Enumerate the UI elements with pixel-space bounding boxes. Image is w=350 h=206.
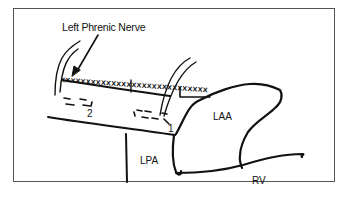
ablation-marks: xxxxxxxxxxxxxxxxxxxxxxxxxxxxx bbox=[60, 75, 208, 95]
site-1-marks bbox=[134, 110, 169, 124]
lower-border-line bbox=[48, 117, 175, 135]
site-2-marks bbox=[64, 98, 92, 106]
site-1-label: 1 bbox=[168, 123, 174, 134]
site-2-label: 2 bbox=[87, 108, 93, 119]
lpa-left-wall bbox=[126, 134, 127, 182]
rv-label: RV bbox=[252, 175, 266, 186]
arrow-icon bbox=[72, 35, 98, 76]
laa-label: LAA bbox=[213, 111, 232, 122]
lpa-label: LPA bbox=[140, 155, 158, 166]
anatomy-drawing: xxxxxxxxxxxxxxxxxxxxxxxxxxxxx bbox=[0, 0, 350, 206]
left-phrenic-nerve-label: Left Phrenic Nerve bbox=[62, 21, 145, 33]
lpa-right-wall bbox=[173, 135, 181, 175]
